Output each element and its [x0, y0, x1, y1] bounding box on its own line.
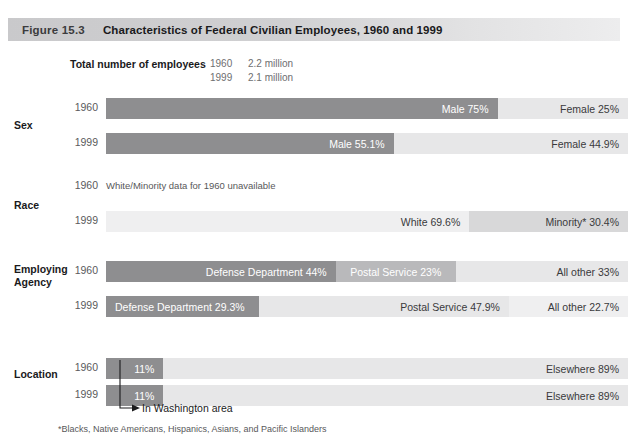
- bar-segment-postal-1999: Postal Service 47.9%: [259, 296, 509, 317]
- bar-segment-label: Elsewhere 89%: [546, 363, 619, 375]
- category-label-sex: Sex: [14, 119, 33, 132]
- bar-segment-label: Elsewhere 89%: [546, 390, 619, 402]
- bar-segment-allother-1960: All other 33%: [456, 261, 628, 282]
- totals-year: 1999: [210, 72, 248, 83]
- totals-year: 1960: [210, 58, 248, 69]
- totals-label: Total number of employees: [70, 58, 206, 70]
- bar-employing-agency-1999: Defense Department 29.3% Postal Service …: [106, 296, 628, 317]
- bar-segment-label: Minority* 30.4%: [545, 216, 619, 228]
- bar-segment-label: Defense Department 29.3%: [115, 301, 245, 313]
- bar-segment-male-1999: Male 55.1%: [106, 133, 394, 154]
- bar-segment-label: All other 22.7%: [548, 301, 619, 313]
- bar-segment-label: Postal Service 47.9%: [400, 301, 500, 313]
- callout-label-washington: In Washington area: [142, 402, 233, 414]
- bar-sex-1960: Male 75% Female 25%: [106, 98, 628, 119]
- bar-segment-label: Male 55.1%: [329, 138, 384, 150]
- bar-segment-male-1960: Male 75%: [106, 98, 498, 119]
- year-label-sex-1960: 1960: [58, 101, 98, 113]
- bar-segment-white-1999: White 69.6%: [106, 211, 469, 232]
- bar-segment-minority-1999: Minority* 30.4%: [469, 211, 628, 232]
- bar-employing-agency-1960: Defense Department 44% Postal Service 23…: [106, 261, 628, 282]
- totals-row-1999: 19992.1 million: [210, 72, 293, 83]
- bar-segment-postal-1960: Postal Service 23%: [336, 261, 456, 282]
- totals-row-1960: 19602.2 million: [210, 58, 293, 69]
- year-label-location-1999: 1999: [58, 388, 98, 400]
- totals-value: 2.1 million: [248, 72, 293, 83]
- figure-header-band: Figure 15.3 Characteristics of Federal C…: [8, 18, 620, 41]
- year-label-race-1960: 1960: [58, 179, 98, 191]
- footnote: *Blacks, Native Americans, Hispanics, As…: [58, 424, 327, 434]
- bar-segment-label: Defense Department 44%: [206, 266, 327, 278]
- year-label-agency-1999: 1999: [58, 299, 98, 311]
- bar-segment-female-1960: Female 25%: [498, 98, 628, 119]
- bar-segment-defense-1960: Defense Department 44%: [106, 261, 336, 282]
- year-label-race-1999: 1999: [58, 214, 98, 226]
- bar-race-1999: White 69.6% Minority* 30.4%: [106, 211, 628, 232]
- year-label-sex-1999: 1999: [58, 136, 98, 148]
- year-label-location-1960: 1960: [58, 361, 98, 373]
- bar-sex-1999: Male 55.1% Female 44.9%: [106, 133, 628, 154]
- bar-segment-elsewhere-1999: Elsewhere 89%: [163, 385, 628, 406]
- race-1960-unavailable-note: White/Minority data for 1960 unavailable: [106, 180, 276, 191]
- bar-segment-female-1999: Female 44.9%: [394, 133, 628, 154]
- bar-segment-label: All other 33%: [557, 266, 619, 278]
- category-label-race: Race: [14, 199, 39, 212]
- bar-segment-label: White 69.6%: [401, 216, 461, 228]
- figure-title: Characteristics of Federal Civilian Empl…: [103, 24, 443, 36]
- totals-value: 2.2 million: [248, 58, 293, 69]
- year-label-agency-1960: 1960: [58, 264, 98, 276]
- figure-number: Figure 15.3: [22, 24, 85, 36]
- bar-segment-label: Postal Service 23%: [336, 266, 456, 278]
- bar-segment-label: Female 44.9%: [551, 138, 619, 150]
- category-label-location: Location: [14, 368, 58, 381]
- bar-segment-label: Female 25%: [560, 103, 619, 115]
- bar-segment-allother-1999: All other 22.7%: [509, 296, 628, 317]
- bar-segment-elsewhere-1960: Elsewhere 89%: [163, 358, 628, 379]
- bar-segment-defense-1999: Defense Department 29.3%: [106, 296, 259, 317]
- bar-segment-label: Male 75%: [442, 103, 489, 115]
